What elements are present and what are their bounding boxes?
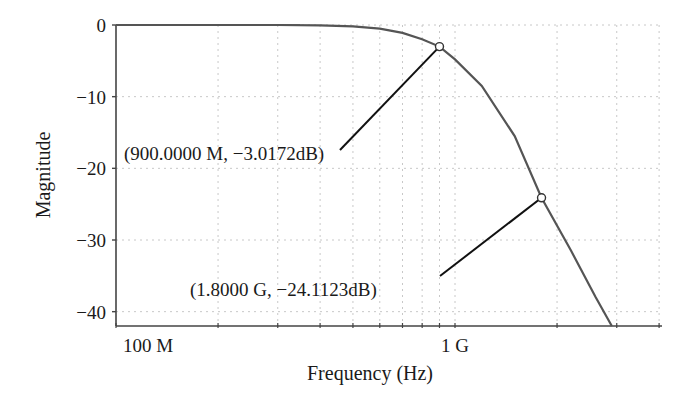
y-tick-label: −30 <box>76 230 106 251</box>
y-axis-ticks: 0−10−20−30−40 <box>76 15 116 323</box>
marker-annotations: (900.0000 M, −3.0172dB)(1.8000 G, −24.11… <box>124 43 546 301</box>
y-tick-label: 0 <box>97 15 107 36</box>
y-tick-label: −40 <box>76 302 106 323</box>
x-axis-label: Frequency (Hz) <box>307 362 433 385</box>
y-tick-label: −20 <box>76 158 106 179</box>
x-axis-ticks: 100 M1 G <box>116 323 659 356</box>
y-tick-label: −10 <box>76 87 106 108</box>
marker-point <box>435 43 443 51</box>
annotation-label: (1.8000 G, −24.1123dB) <box>190 279 377 301</box>
x-tick-label: 1 G <box>441 335 469 356</box>
marker-point <box>538 194 546 202</box>
x-tick-label: 100 M <box>123 335 173 356</box>
bode-magnitude-chart: 0−10−20−30−40 100 M1 G (900.0000 M, −3.0… <box>0 0 691 401</box>
annotation-leader-line <box>340 47 439 150</box>
y-axis-label: Magnitude <box>32 132 55 219</box>
annotation-label: (900.0000 M, −3.0172dB) <box>124 143 324 165</box>
